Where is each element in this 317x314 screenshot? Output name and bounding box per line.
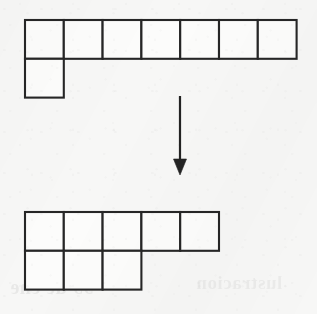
grid-cell — [141, 212, 180, 251]
grid-cell — [103, 251, 142, 290]
figure-canvas: An 8-square polyomino shown before and a… — [0, 0, 317, 314]
grid-cell — [25, 251, 64, 290]
after-shape-grid — [0, 0, 317, 314]
after-shape — [0, 0, 317, 314]
grid-cell — [25, 212, 64, 251]
grid-cell — [64, 212, 103, 251]
grid-cell — [103, 212, 142, 251]
grid-cell — [180, 212, 219, 251]
grid-cell — [64, 251, 103, 290]
